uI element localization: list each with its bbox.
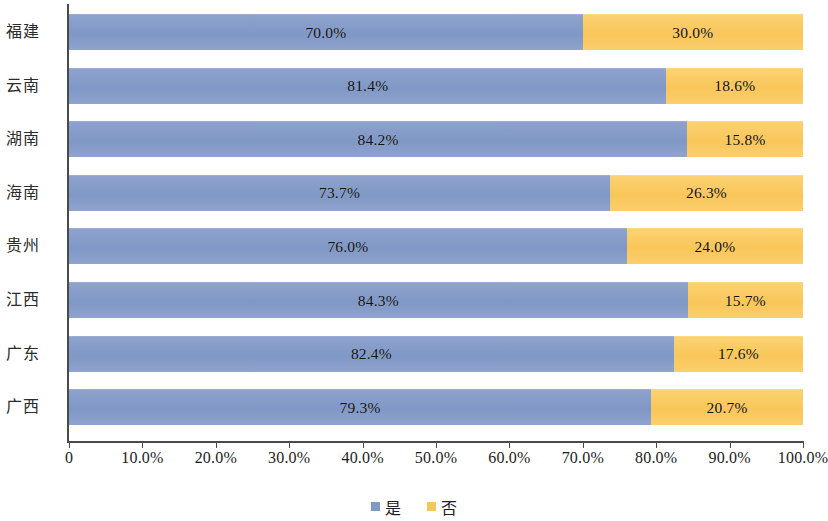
bar-segment-no[interactable]: 24.0% [627,228,803,264]
x-axis-tick [509,441,510,448]
chart-legend: 是否 [0,492,827,521]
bar-value-label-yes: 76.0% [327,238,368,256]
bar-value-label-no: 18.6% [714,77,755,95]
bar-value-label-no: 30.0% [672,24,713,42]
bar-row[interactable]: 82.4%17.6% [69,336,803,372]
x-axis-tick [216,441,217,448]
x-axis-tick [69,441,70,448]
x-axis-tick-label: 50.0% [415,449,457,467]
x-axis-tick [289,441,290,448]
bar-value-label-yes: 73.7% [319,184,360,202]
legend-swatch-icon [371,502,380,511]
bar-value-label-yes: 81.4% [347,77,388,95]
plot-area: 70.0%30.0%81.4%18.6%84.2%15.8%73.7%26.3%… [67,4,803,443]
bar-value-label-yes: 84.3% [358,292,399,310]
bar-segment-yes[interactable]: 82.4% [69,336,674,372]
category-label: 海南 [0,175,56,211]
category-label: 福建 [0,14,56,50]
x-axis-tick-label: 20.0% [195,449,237,467]
bar-row[interactable]: 84.2%15.8% [69,121,803,157]
x-axis-tick-label: 30.0% [268,449,310,467]
bar-value-label-no: 15.8% [724,131,765,149]
bar-value-label-no: 26.3% [686,184,727,202]
bar-segment-no[interactable]: 20.7% [651,389,803,425]
x-axis-tick [730,441,731,448]
x-axis-tick [363,441,364,448]
bar-value-label-yes: 82.4% [351,345,392,363]
x-axis-tick-label: 90.0% [708,449,750,467]
category-label: 贵州 [0,228,56,264]
x-axis-tick-label: 0 [65,449,73,467]
x-axis-tick [142,441,143,448]
x-axis-line [67,441,803,443]
bar-value-label-yes: 84.2% [357,131,398,149]
legend-label: 否 [441,495,457,519]
bar-segment-yes[interactable]: 84.3% [69,282,688,318]
bar-segment-yes[interactable]: 84.2% [69,121,687,157]
bar-segment-yes[interactable]: 76.0% [69,228,627,264]
x-axis-tick-label: 100.0% [778,449,828,467]
legend-label: 是 [385,495,401,519]
bar-segment-yes[interactable]: 70.0% [69,14,583,50]
category-label: 江西 [0,282,56,318]
bar-segment-yes[interactable]: 73.7% [69,175,610,211]
bar-segment-yes[interactable]: 79.3% [69,389,651,425]
x-axis-tick-label: 40.0% [341,449,383,467]
bar-value-label-no: 24.0% [694,238,735,256]
category-label: 广西 [0,389,56,425]
legend-swatch-icon [427,502,436,511]
bar-row[interactable]: 84.3%15.7% [69,282,803,318]
legend-item[interactable]: 是 [371,495,401,519]
bar-segment-no[interactable]: 26.3% [610,175,803,211]
bar-row[interactable]: 76.0%24.0% [69,228,803,264]
x-axis-tick [583,441,584,448]
bar-segment-no[interactable]: 17.6% [674,336,803,372]
bar-segment-no[interactable]: 15.7% [688,282,803,318]
x-axis-tick-label: 10.0% [121,449,163,467]
x-axis-tick-label: 70.0% [562,449,604,467]
bar-segment-yes[interactable]: 81.4% [69,68,666,104]
x-axis-tick [656,441,657,448]
bar-value-label-no: 15.7% [725,292,766,310]
bar-segment-no[interactable]: 15.8% [687,121,803,157]
bar-row[interactable]: 81.4%18.6% [69,68,803,104]
category-label: 湖南 [0,121,56,157]
bar-value-label-yes: 79.3% [340,399,381,417]
bar-value-label-no: 17.6% [718,345,759,363]
category-label: 云南 [0,68,56,104]
bar-segment-no[interactable]: 30.0% [583,14,803,50]
category-axis-labels: 福建云南湖南海南贵州江西广东广西 [0,4,62,443]
bar-row[interactable]: 70.0%30.0% [69,14,803,50]
bar-value-label-yes: 70.0% [305,24,346,42]
bar-segment-no[interactable]: 18.6% [666,68,803,104]
bar-row[interactable]: 79.3%20.7% [69,389,803,425]
x-axis-tick-labels: 010.0%20.0%30.0%40.0%50.0%60.0%70.0%80.0… [0,449,827,477]
legend-item[interactable]: 否 [427,495,457,519]
x-axis-tick-label: 60.0% [488,449,530,467]
bar-rows: 70.0%30.0%81.4%18.6%84.2%15.8%73.7%26.3%… [69,4,803,441]
x-axis-tick [436,441,437,448]
x-axis-tick-label: 80.0% [635,449,677,467]
x-axis-tick [803,441,804,448]
bar-value-label-no: 20.7% [706,399,747,417]
category-label: 广东 [0,336,56,372]
bar-row[interactable]: 73.7%26.3% [69,175,803,211]
